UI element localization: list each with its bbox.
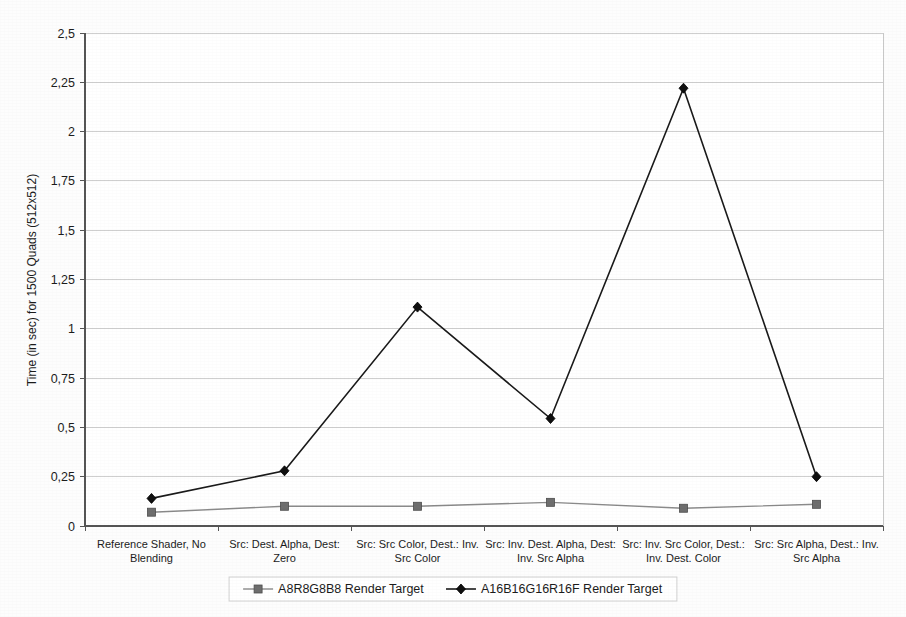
y-tick-label: 2,25 (51, 76, 75, 90)
x-tick-label: Reference Shader, No (97, 538, 206, 550)
y-tick-label: 2 (68, 125, 75, 139)
x-tick-label: Inv. Src Alpha (517, 552, 585, 564)
y-tick-label: 0,5 (58, 421, 75, 435)
x-tick-label: Src: Inv. Dest. Alpha, Dest: (485, 538, 616, 550)
x-tick-label: Inv. Dest. Color (646, 552, 721, 564)
y-tick-label: 1,75 (51, 174, 75, 188)
y-tick-label: 1,25 (51, 273, 75, 287)
legend-label: A8R8G8B8 Render Target (278, 582, 424, 596)
y-tick-label: 1,5 (58, 224, 75, 238)
y-tick-label: 1 (68, 322, 75, 336)
x-tick-label: Src: Inv. Src Color, Dest.: (622, 538, 745, 550)
legend-label: A16B16G16R16F Render Target (481, 582, 663, 596)
x-axis-labels: Reference Shader, NoBlendingSrc: Dest. A… (97, 538, 879, 564)
y-tick-label: 0,75 (51, 372, 75, 386)
data-point-marker (281, 502, 289, 510)
y-axis-title: Time (in sec) for 1500 Quads (512x512) (25, 174, 39, 386)
line-chart: 00,250,50,7511,251,51,7522,252,5 Referen… (0, 0, 906, 617)
data-point-marker (547, 498, 555, 506)
x-tick-label: Src: Src Alpha, Dest.: Inv. (754, 538, 879, 550)
x-axis-ticks (85, 526, 883, 531)
chart-container: 00,250,50,7511,251,51,7522,252,5 Referen… (0, 0, 906, 617)
x-tick-label: Src: Src Color, Dest.: Inv. (356, 538, 479, 550)
y-axis-ticks: 00,250,50,7511,251,51,7522,252,5 (51, 27, 85, 534)
data-point-marker (148, 508, 156, 516)
y-tick-label: 0 (68, 520, 75, 534)
data-point-marker (813, 500, 821, 508)
data-point-marker (414, 502, 422, 510)
x-tick-label: Src Color (395, 552, 441, 564)
chart-legend: A8R8G8B8 Render TargetA16B16G16R16F Rend… (229, 577, 677, 601)
y-tick-label: 2,5 (58, 27, 75, 41)
x-tick-label: Blending (130, 552, 173, 564)
data-point-marker (680, 504, 688, 512)
x-tick-label: Src: Dest. Alpha, Dest: (229, 538, 340, 550)
legend-marker (254, 585, 262, 593)
x-tick-label: Zero (273, 552, 296, 564)
y-tick-label: 0,25 (51, 470, 75, 484)
x-tick-label: Src Alpha (793, 552, 841, 564)
